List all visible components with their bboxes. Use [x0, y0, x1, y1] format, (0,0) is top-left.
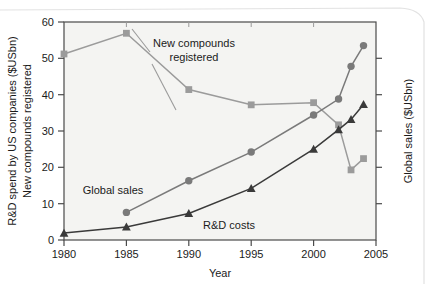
data-point-marker [360, 155, 367, 162]
y-tick-label-0: 0 [48, 234, 54, 246]
x-tick-label-1995: 1995 [239, 248, 263, 260]
data-point-marker [185, 177, 192, 184]
data-point-marker [335, 95, 342, 102]
annotation-global-sales: Global sales [83, 184, 144, 196]
data-point-marker [360, 42, 367, 49]
y-tick-label-30: 30 [42, 125, 54, 137]
data-point-marker [248, 101, 255, 108]
x-tick-label-1980: 1980 [52, 248, 76, 260]
annotation-rd-costs: R&D costs [203, 219, 255, 231]
plot-area-background [64, 22, 376, 240]
x-tick-label-2005: 2005 [364, 248, 388, 260]
data-point-marker [310, 111, 317, 118]
chart-svg: 0 10 20 30 40 50 60 1980 1985 1990 1995 … [0, 0, 427, 284]
y-tick-label-10: 10 [42, 198, 54, 210]
chart-figure: 0 10 20 30 40 50 60 1980 1985 1990 1995 … [0, 0, 427, 284]
data-point-marker [347, 63, 354, 70]
y-tick-label-60: 60 [42, 16, 54, 28]
annotation-new-compounds-line1: New compounds [153, 37, 235, 49]
y-tick-label-50: 50 [42, 52, 54, 64]
y-axis-title-line1: R&D spend by US companies ($USbn) [6, 36, 18, 226]
data-point-marker [248, 148, 255, 155]
data-point-marker [61, 51, 68, 58]
data-point-marker [123, 209, 130, 216]
data-point-marker [348, 166, 355, 173]
x-tick-label-1985: 1985 [114, 248, 138, 260]
y2-axis-title: Global sales ($USbn) [402, 79, 414, 184]
data-point-marker [123, 30, 130, 37]
data-point-marker [310, 99, 317, 106]
x-axis-title: Year [209, 267, 232, 279]
x-tick-label-2000: 2000 [301, 248, 325, 260]
annotation-new-compounds-line2: registered [170, 51, 219, 63]
y2-axis-ticks [376, 58, 382, 203]
y-tick-label-40: 40 [42, 89, 54, 101]
y-tick-label-20: 20 [42, 161, 54, 173]
x-tick-label-1990: 1990 [177, 248, 201, 260]
data-point-marker [185, 86, 192, 93]
y-axis-title-line2: New compounds registered [21, 64, 33, 198]
